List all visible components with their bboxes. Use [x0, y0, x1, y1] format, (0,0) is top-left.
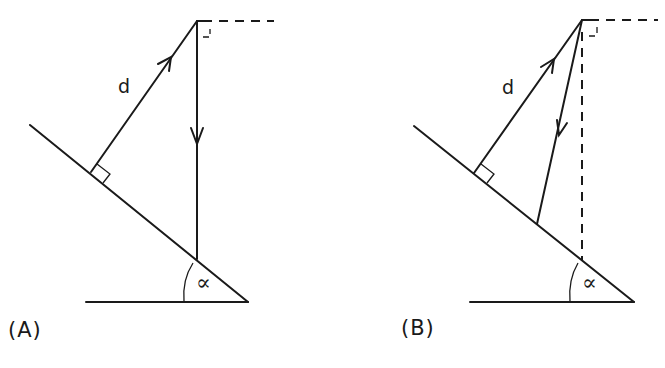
- distance-d-line: [91, 21, 197, 172]
- arrow-up-icon: [541, 59, 554, 73]
- angle-label-b: ∝: [582, 270, 597, 295]
- right-angle-marker-apex: [589, 27, 597, 36]
- distance-label-b: d: [502, 76, 514, 98]
- distance-label-a: d: [118, 75, 130, 97]
- angle-label-a: ∝: [196, 270, 211, 295]
- angle-arc: [184, 263, 193, 302]
- panel-label-b: (B): [401, 316, 435, 340]
- right-angle-marker-apex: [203, 29, 210, 37]
- slope-line: [30, 125, 248, 302]
- slope-line: [414, 126, 634, 302]
- angle-arc: [570, 263, 578, 302]
- panel-b: [414, 20, 658, 302]
- panel-label-a: (A): [8, 318, 42, 342]
- panel-a: [30, 21, 274, 302]
- diagram-canvas: [0, 0, 665, 368]
